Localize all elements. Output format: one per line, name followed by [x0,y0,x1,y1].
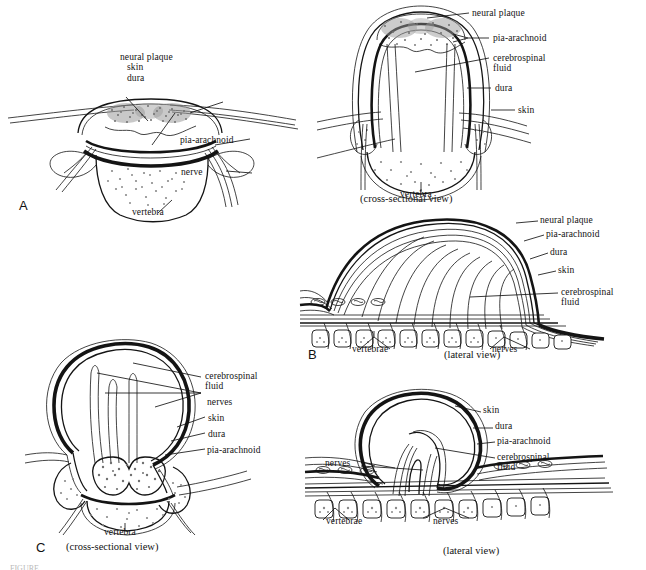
panel-letter-c: C [36,540,45,555]
label-csf-b-line2: fluid [493,63,511,74]
neural-plaque-stipple-b [381,18,461,46]
label-skin-cl: skin [483,405,499,416]
vertebra-stipple [107,168,185,206]
panel-c-lateral-view-caption: (lateral view) [443,545,499,556]
label-pia-arachnoid-b: pia-arachnoid [493,33,547,44]
panel-b-cross: neural plaque pia-arachnoid cerebrospina… [315,0,646,205]
label-vertebra: vertebra [132,207,164,218]
label-dura: dura [127,73,144,84]
label-vertebrae-cl: vertebrae [326,516,362,527]
label-neural-plaque-bl: neural plaque [540,215,593,226]
label-csf-c-line2: fluid [205,381,223,392]
label-skin-b: skin [518,105,534,116]
panel-b-lateral-illustration [300,205,646,350]
label-pia-arachnoid-cl: pia-arachnoid [497,436,551,447]
label-dura-b: dura [495,83,512,94]
label-neural-plaque: neural plaque [120,52,173,63]
label-vertebra-c: vertebra [104,527,136,538]
label-csf-bl-line1: cerebrospinal [561,287,613,298]
label-csf-cl-line2: fluid [497,462,515,473]
panel-b-cross-illustration [315,0,646,205]
leader-csf-cl [435,448,495,458]
label-csf-c-line1: cerebrospinal [205,371,257,382]
neural-plaque-stipple [107,103,191,123]
figure-page: neural plaque skin dura pia-arachnoid ne… [0,0,646,570]
skin-plane-ovals [311,299,385,306]
panel-c-cross: cerebrospinal fluid nerves skin dura pia… [25,335,315,535]
leader-skin-bl [538,271,556,275]
panel-b-cross-view-caption: (cross-sectional view) [360,193,452,204]
label-nerves-cl-left: nerves [325,458,350,469]
panel-c-lateral: skin dura pia-arachnoid cerebrospinal fl… [305,388,646,528]
label-pia-arachnoid-c: pia-arachnoid [207,445,261,456]
label-csf-b-line1: cerebrospinal [493,53,545,64]
label-nerves-c: nerves [207,397,232,408]
label-dura-cl: dura [495,421,512,432]
label-skin: skin [127,62,143,73]
leader-dura-bl [530,253,548,259]
label-nerve: nerve [181,167,203,178]
label-nerves-cl-right: nerves [433,516,458,527]
leader-nerves-c3 [155,393,201,407]
panel-letter-a: A [19,198,28,213]
leader-neural-plaque-bl [516,221,538,223]
vertebrae-row-c [315,497,549,518]
panel-b-lateral-view-caption: (lateral view) [444,349,500,360]
figure-caption: FIGURE [10,564,240,570]
leader-skin [190,102,223,113]
label-pia-arachnoid: pia-arachnoid [180,135,234,146]
panel-a-illustration [0,55,310,230]
label-neural-plaque-b: neural plaque [472,8,525,19]
label-dura-c: dura [208,429,225,440]
label-pia-arachnoid-bl: pia-arachnoid [546,229,600,240]
panel-b-lateral: neural plaque pia-arachnoid dura skin ce… [300,205,646,350]
panel-a: neural plaque skin dura pia-arachnoid ne… [0,55,310,230]
cord-stipple-c [98,462,160,490]
leader-csf-bl [470,293,558,297]
leader-pia-bl [524,235,544,241]
label-csf-cl-line1: cerebrospinal [497,452,549,463]
panel-c-lateral-illustration [305,388,646,528]
label-skin-c: skin [208,413,224,424]
label-dura-bl: dura [550,247,567,258]
label-csf-bl-line2: fluid [561,297,579,308]
leader-csf-b [415,58,489,72]
label-vertebrae-bl: vertebrae [352,344,388,355]
panel-c-cross-view-caption: (cross-sectional view) [66,541,158,552]
label-skin-bl: skin [558,265,574,276]
panel-c-cross-illustration [25,335,315,535]
